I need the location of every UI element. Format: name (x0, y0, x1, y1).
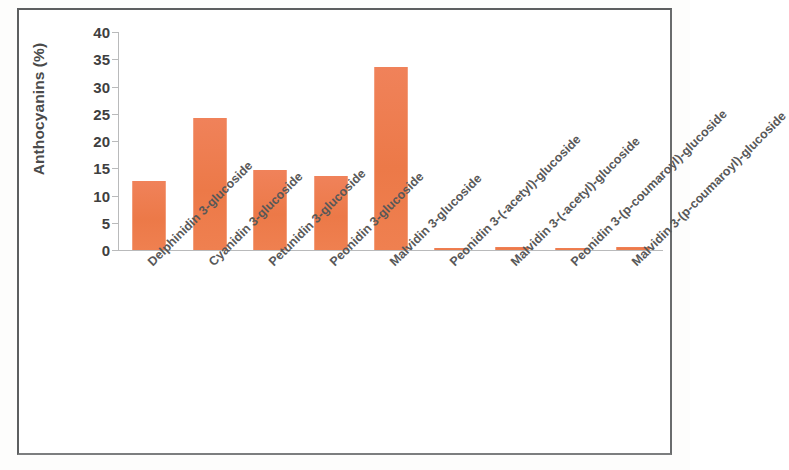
x-tick-label: Peonidin 3-(-acetyl)-glucoside (447, 132, 584, 269)
x-tick-label: Delphinidin 3-glucoside (145, 158, 255, 268)
x-tick-label: Malvidin 3-(-acetyl)-glucoside (508, 134, 643, 269)
